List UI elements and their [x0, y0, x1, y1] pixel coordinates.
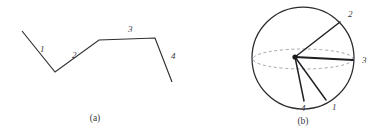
- ray-label-2: 2: [348, 9, 353, 19]
- ray-label-3: 3: [361, 55, 367, 65]
- ray-line-3: [295, 57, 353, 60]
- ray-origin-dot: [292, 54, 297, 59]
- figure-canvas: 1 2 3 4 (a) 2 3 1 4 (b): [0, 0, 382, 138]
- figure-container: 1 2 3 4 (a) 2 3 1 4 (b): [0, 0, 382, 138]
- panel-a-group: 1 2 3 4 (a): [22, 24, 176, 124]
- panel-a-caption: (a): [90, 113, 101, 124]
- segment-label-3: 3: [127, 24, 133, 34]
- segment-label-1: 1: [40, 44, 45, 54]
- panel-b-caption: (b): [297, 116, 308, 127]
- panel-b-group: 2 3 1 4 (b): [252, 7, 367, 127]
- ray-label-1: 1: [332, 102, 337, 112]
- polyline-path: [22, 31, 172, 82]
- ray-line-2: [295, 22, 340, 57]
- segment-label-2: 2: [72, 50, 77, 60]
- ray-label-4: 4: [301, 103, 306, 113]
- segment-label-4: 4: [171, 51, 176, 61]
